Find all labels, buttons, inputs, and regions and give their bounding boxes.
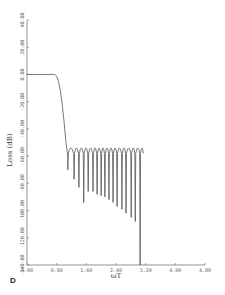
x-tick-label: 0.80 [51, 267, 63, 273]
y-tick-label: -40.00 [19, 120, 25, 138]
y-tick-label: 40.00 [19, 12, 25, 27]
x-tick-label: 4.00 [169, 267, 181, 273]
y-tick-label: 20.00 [19, 40, 25, 55]
y-tick-label: -120.00 [19, 227, 25, 248]
panel-label: D [10, 276, 16, 285]
loss-curve [27, 74, 143, 265]
y-axis-ticks: 40.0020.000.00-20.00-40.00-60.00-80.00-1… [19, 12, 29, 275]
x-tick-label: 3.20 [140, 267, 152, 273]
y-tick-label: -60.00 [19, 147, 25, 165]
y-tick-label: 0.00 [19, 68, 25, 80]
y-tick-label: -80.00 [19, 174, 25, 192]
x-tick-label: 4.80 [199, 267, 211, 273]
x-tick-label: 0.00 [21, 267, 33, 273]
y-tick-label: -20.00 [19, 93, 25, 111]
loss-chart: 40.0020.000.00-20.00-40.00-60.00-80.00-1… [0, 0, 225, 295]
y-tick-label: -100.00 [19, 200, 25, 221]
y-axis-label: Loss (dB) [6, 133, 14, 167]
axes [27, 20, 205, 265]
x-tick-label: 1.60 [80, 267, 92, 273]
x-axis-label: ωT [111, 272, 122, 280]
